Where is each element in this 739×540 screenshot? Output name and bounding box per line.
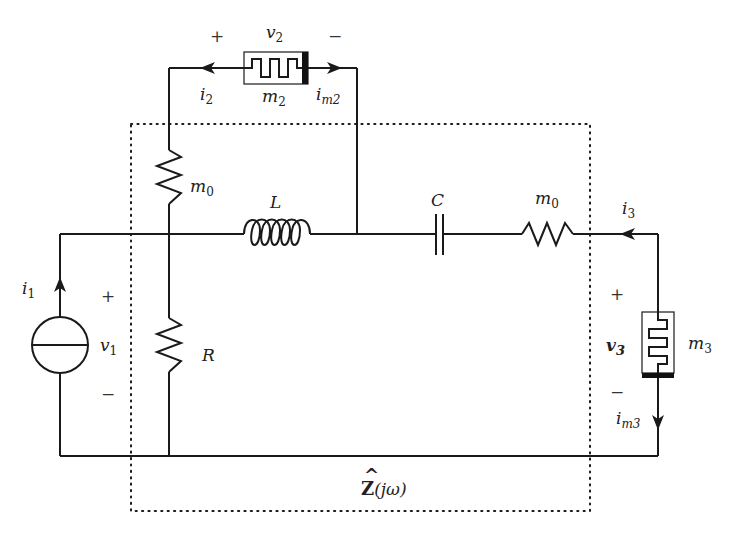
label-i3: i3 <box>622 198 635 221</box>
label-m3: m3 <box>688 333 712 356</box>
circuit-diagram: i1 v1 + − R m0 L C m0 + v2 − i2 m2 im2 i… <box>0 0 739 540</box>
label-v1-minus: − <box>101 384 115 404</box>
label-v2: v2 <box>266 22 283 45</box>
current-source-icon <box>32 317 88 373</box>
resistor-m0-horizontal-icon <box>522 223 573 245</box>
label-v3-plus: + <box>610 284 624 304</box>
label-v2-minus: − <box>328 26 342 46</box>
memristor-m3-icon <box>642 312 674 378</box>
label-v1-plus: + <box>101 286 115 306</box>
memristor-m2-icon <box>244 52 308 84</box>
label-v2-plus: + <box>210 26 224 46</box>
label-i2: i2 <box>200 84 213 107</box>
label-R: R <box>201 345 215 365</box>
label-C: C <box>431 190 444 210</box>
label-m0-horizontal: m0 <box>535 188 559 211</box>
label-im2: im2 <box>316 84 340 107</box>
label-Z-jw: Z(jω) <box>361 478 407 499</box>
resistor-m0-vertical-icon <box>157 150 181 204</box>
capacitor-C-icon <box>436 214 443 255</box>
label-v1: v1 <box>100 335 117 358</box>
wires <box>60 68 658 456</box>
resistor-R-icon <box>157 318 181 372</box>
label-v3-minus: − <box>610 382 624 402</box>
inductor-L-icon <box>244 220 310 246</box>
label-im3: im3 <box>616 408 641 431</box>
label-v3: v3 <box>606 335 625 358</box>
label-i1: i1 <box>22 278 35 301</box>
label-L: L <box>269 192 281 212</box>
label-m2: m2 <box>262 86 286 109</box>
label-m0-vertical: m0 <box>190 176 214 199</box>
